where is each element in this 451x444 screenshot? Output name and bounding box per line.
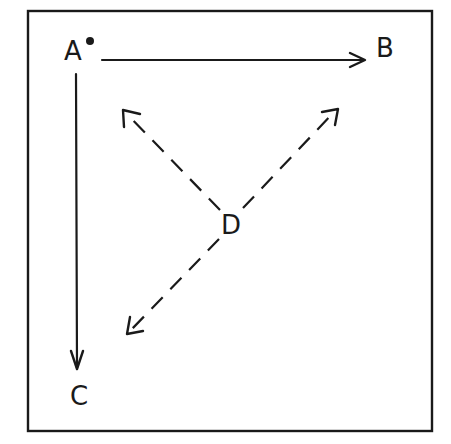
edge-d-to-upper-left-line: [126, 113, 220, 210]
edge-d-to-upper-left: [123, 110, 220, 210]
edge-d-to-upper-right: [243, 109, 338, 208]
edge-a-to-b: [102, 53, 365, 67]
node-a-label: A: [64, 36, 82, 66]
node-a: A: [64, 36, 94, 66]
node-d-label: D: [221, 210, 241, 240]
edge-d-to-lower-left-line: [130, 239, 219, 331]
diagram-canvas: A B C D: [0, 0, 451, 444]
node-b: B: [376, 33, 394, 63]
edge-d-to-lower-left: [127, 239, 219, 334]
node-a-dot-marker: [86, 37, 94, 45]
edge-a-to-c-line: [76, 74, 77, 368]
edge-d-to-upper-right-line: [243, 111, 335, 208]
node-b-label: B: [376, 33, 394, 63]
edge-a-to-c: [71, 74, 83, 369]
node-c-label: C: [70, 381, 88, 411]
node-c: C: [70, 381, 88, 411]
node-d: D: [221, 210, 241, 240]
